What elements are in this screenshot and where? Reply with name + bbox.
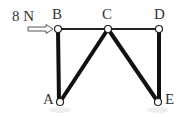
truss-diagram: 8 N B C D A E (0, 0, 184, 117)
node-label-e: E (165, 91, 174, 107)
member-ca (60, 29, 108, 102)
force-arrow-icon (28, 25, 53, 34)
node-a (57, 99, 64, 106)
node-label-b: B (52, 6, 62, 22)
node-d (156, 26, 163, 33)
support-shadow-e (147, 107, 169, 113)
node-label-c: C (102, 6, 112, 22)
force-label: 8 N (12, 8, 34, 24)
node-e (155, 99, 162, 106)
node-label-d: D (154, 6, 165, 22)
member-ba (58, 29, 59, 102)
node-c (105, 26, 112, 33)
node-b (55, 26, 62, 33)
node-label-a: A (43, 91, 54, 107)
member-ce (108, 29, 158, 102)
support-shadow-a (49, 107, 71, 113)
